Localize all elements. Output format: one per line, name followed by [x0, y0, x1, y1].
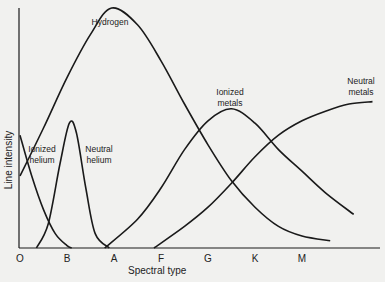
x-tick-label: O	[16, 253, 24, 264]
series-label-hydrogen: Hydrogen	[92, 17, 129, 27]
series-label-neutral-metals: Neutralmetals	[347, 76, 375, 97]
x-tick-label: K	[252, 253, 259, 264]
series-line-hydrogen	[20, 8, 330, 241]
series-label-ionized-metals: Ionizedmetals	[216, 87, 244, 108]
x-axis-label: Spectral type	[128, 265, 187, 276]
series-label-ionized-helium: Ionizedhelium	[28, 144, 56, 165]
series-line-neutral-helium	[36, 121, 109, 248]
x-tick-label: A	[111, 253, 118, 264]
x-tick-label: F	[158, 253, 164, 264]
series-label-neutral-helium: Neutralhelium	[85, 144, 113, 165]
x-tick-label: M	[298, 253, 306, 264]
y-axis-label: Line intensity	[3, 131, 14, 189]
series-line-neutral-metals	[154, 102, 373, 248]
x-tick-label: B	[64, 253, 71, 264]
spectral-line-chart: OBAFGKM HydrogenIonizedheliumNeutralheli…	[0, 0, 385, 282]
x-tick-label: G	[204, 253, 212, 264]
